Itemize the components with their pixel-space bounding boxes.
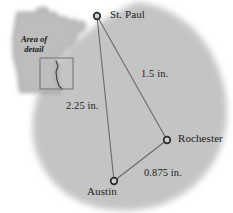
city-label-rochester: Rochester <box>178 133 223 145</box>
map-figure: Area of detail St. Paul Rochester Austin… <box>0 0 233 213</box>
city-label-st-paul: St. Paul <box>110 9 145 21</box>
marker-rochester <box>164 137 171 144</box>
marker-austin <box>111 178 118 185</box>
distance-label-st-paul-austin: 2.25 in. <box>66 100 99 111</box>
marker-st-paul <box>94 13 101 20</box>
distance-label-austin-rochester: 0.875 in. <box>144 167 182 178</box>
area-of-detail-line2: detail <box>10 45 58 55</box>
area-of-detail-label: Area of detail <box>10 35 58 55</box>
city-label-austin: Austin <box>87 186 117 198</box>
map-graphics <box>0 0 233 213</box>
distance-label-st-paul-rochester: 1.5 in. <box>141 68 168 79</box>
